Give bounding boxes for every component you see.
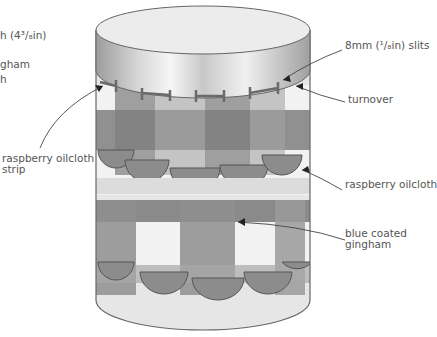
label-turnover: turnover xyxy=(348,93,393,105)
label-slits: 8mm (¹/₈in) slits xyxy=(345,39,429,51)
label-strip-2: strip xyxy=(2,163,26,175)
label-oilcloth: h xyxy=(0,73,7,85)
label-gingham: gham xyxy=(0,58,30,70)
label-height: h (4³/₈in) xyxy=(0,29,46,41)
label-blue-2: gingham xyxy=(345,238,391,250)
label-raspberry-oilcloth: raspberry oilcloth xyxy=(345,178,437,190)
